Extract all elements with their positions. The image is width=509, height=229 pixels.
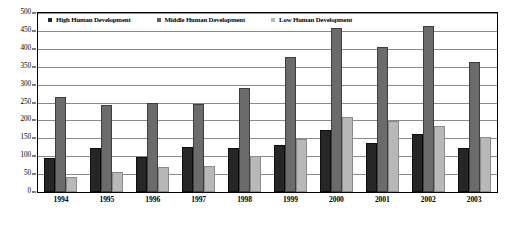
bar	[101, 105, 112, 192]
bar	[366, 143, 377, 192]
x-axis-tick-label: 1997	[176, 196, 222, 212]
x-axis-tick-label: 1999	[268, 196, 314, 212]
bar	[55, 97, 66, 192]
bar	[434, 126, 445, 192]
y-axis-tick-label: 400	[21, 45, 31, 52]
y-axis-tick-mark	[32, 102, 36, 103]
bar	[331, 28, 342, 192]
legend-swatch-high-icon	[48, 18, 52, 22]
bar	[158, 167, 169, 192]
bar	[320, 130, 331, 192]
chart-legend: High Human DevelopmentMiddle Human Devel…	[48, 15, 352, 26]
y-axis-tick-mark	[32, 84, 36, 85]
y-axis-tick-label: 200	[21, 117, 31, 124]
x-axis-tick-label: 2002	[405, 196, 451, 212]
bar	[228, 148, 239, 192]
legend-swatch-middle-icon	[157, 18, 161, 22]
legend-swatch-low-icon	[271, 18, 275, 22]
bar-group	[176, 13, 222, 192]
bar-groups	[38, 13, 497, 192]
bar	[469, 62, 480, 192]
y-axis-tick-mark	[32, 120, 36, 121]
bar	[66, 177, 77, 192]
bar	[296, 139, 307, 192]
y-axis: 050100150200250300350400450500	[0, 12, 36, 193]
y-axis-tick-label: 250	[21, 99, 31, 106]
bar	[388, 121, 399, 192]
bar-group	[84, 13, 130, 192]
y-axis-tick-mark	[32, 48, 36, 49]
x-axis-tick-label: 2001	[359, 196, 405, 212]
legend-item: High Human Development	[48, 17, 131, 24]
bar	[44, 158, 55, 192]
x-axis-tick-label: 1998	[222, 196, 268, 212]
bar-group	[405, 13, 451, 192]
y-axis-tick-label: 300	[21, 81, 31, 88]
legend-item-label: Middle Human Development	[165, 17, 246, 24]
y-axis-tick-label: 150	[21, 135, 31, 142]
y-axis-tick-mark	[32, 192, 36, 193]
bar	[250, 156, 261, 192]
bar	[458, 148, 469, 192]
x-axis-tick-label: 1996	[130, 196, 176, 212]
bar	[480, 137, 491, 192]
bar	[239, 88, 250, 192]
bar	[342, 117, 353, 192]
bar-chart: 050100150200250300350400450500 199419951…	[0, 0, 509, 229]
x-axis-tick-label: 2000	[313, 196, 359, 212]
x-axis-tick-label: 1994	[38, 196, 84, 212]
legend-item: Middle Human Development	[157, 17, 246, 24]
x-axis: 1994199519961997199819992000200120022003	[38, 196, 497, 212]
y-axis-tick-label: 350	[21, 63, 31, 70]
y-axis-tick-label: 50	[24, 170, 31, 177]
bar	[412, 134, 423, 192]
x-axis-tick-label: 1995	[84, 196, 130, 212]
bar	[423, 26, 434, 192]
bar-group	[38, 13, 84, 192]
bar	[147, 103, 158, 192]
bar-group	[451, 13, 497, 192]
y-axis-tick-label: 450	[21, 27, 31, 34]
y-axis-tick-label: 500	[21, 9, 31, 16]
y-axis-tick-mark	[32, 156, 36, 157]
bar-group	[313, 13, 359, 192]
bar-group	[130, 13, 176, 192]
bar-group	[268, 13, 314, 192]
bar	[193, 104, 204, 192]
y-axis-tick-label: 0	[28, 188, 32, 195]
gridline	[38, 192, 497, 193]
bar-group	[222, 13, 268, 192]
legend-item-label: High Human Development	[56, 17, 131, 24]
y-axis-tick-mark	[32, 66, 36, 67]
bar	[377, 47, 388, 192]
y-axis-tick-mark	[32, 13, 36, 14]
y-axis-tick-label: 100	[21, 153, 31, 160]
y-axis-tick-mark	[32, 30, 36, 31]
bar-group	[359, 13, 405, 192]
legend-item-label: Low Human Development	[279, 17, 352, 24]
legend-item: Low Human Development	[271, 17, 352, 24]
bar	[274, 145, 285, 192]
bar	[90, 148, 101, 192]
bar	[182, 147, 193, 192]
bar	[136, 157, 147, 192]
bar	[204, 166, 215, 192]
bar	[285, 57, 296, 192]
bar	[112, 172, 123, 192]
x-axis-tick-label: 2003	[451, 196, 497, 212]
y-axis-tick-mark	[32, 174, 36, 175]
y-axis-tick-mark	[32, 138, 36, 139]
